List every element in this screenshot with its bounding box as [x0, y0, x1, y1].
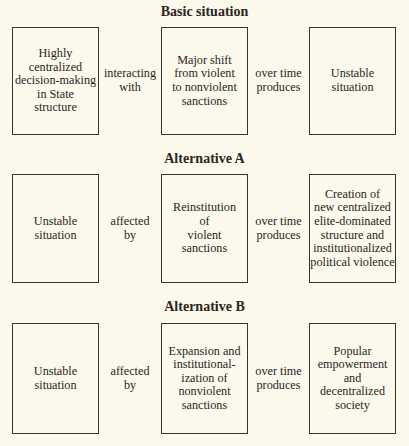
box-centralized-elite-structure: Creation of new centralized elite-domina… [309, 174, 396, 283]
connector-label: over time produces [255, 215, 301, 242]
box-unstable-situation: Unstable situation [12, 323, 99, 434]
connector-affected-by: affected by [99, 174, 161, 283]
box-label: Reinstitution of violent sanctions [173, 201, 236, 255]
connector-label: affected by [110, 215, 149, 242]
connector-interacting-with: interacting with [99, 27, 161, 135]
box-unstable-situation: Unstable situation [309, 27, 396, 135]
box-label: Popular empowerment and decentralized so… [318, 345, 388, 413]
section-title-alternative-b: Alternative B [0, 299, 409, 315]
connector-label: interacting with [104, 67, 156, 94]
connector-label: affected by [110, 365, 149, 392]
box-popular-empowerment: Popular empowerment and decentralized so… [309, 323, 396, 434]
box-major-shift: Major shift from violent to nonviolent s… [161, 27, 248, 135]
box-label: Major shift from violent to nonviolent s… [172, 54, 237, 108]
section-title-alternative-a: Alternative A [0, 151, 409, 167]
box-label: Unstable situation [34, 365, 77, 392]
box-label: Unstable situation [331, 67, 374, 94]
connector-affected-by: affected by [99, 323, 161, 434]
box-expansion-nonviolent-sanctions: Expansion and institutional- ization of … [161, 323, 248, 434]
connector-over-time-produces: over time produces [248, 174, 309, 283]
section-title-basic-situation: Basic situation [0, 4, 409, 20]
box-label: Unstable situation [34, 215, 77, 242]
connector-over-time-produces: over time produces [248, 323, 309, 434]
connector-over-time-produces: over time produces [248, 27, 309, 135]
connector-label: over time produces [255, 365, 301, 392]
box-unstable-situation: Unstable situation [12, 174, 99, 283]
box-label: Highly centralized decision-making in St… [15, 47, 96, 115]
box-label: Creation of new centralized elite-domina… [310, 188, 394, 270]
box-centralized-decision-making: Highly centralized decision-making in St… [12, 27, 99, 135]
connector-label: over time produces [255, 67, 301, 94]
box-reinstitution-violent-sanctions: Reinstitution of violent sanctions [161, 174, 248, 283]
box-label: Expansion and institutional- ization of … [168, 345, 240, 413]
